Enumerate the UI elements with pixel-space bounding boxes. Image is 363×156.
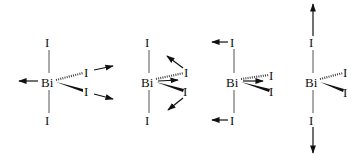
atom-i-axial-bottom: I	[230, 113, 234, 128]
atom-i-eq-hashed: I	[84, 65, 88, 80]
atom-i-axial-bottom: I	[45, 113, 49, 128]
atom-i-axial-top: I	[230, 35, 234, 50]
displacement-arrow-i-wedge	[94, 94, 113, 99]
atom-i-eq-wedge: I	[183, 84, 187, 99]
hashed-bond	[241, 75, 269, 79]
hashed-bond	[56, 73, 83, 80]
panel-mode-2: I I Bi I I	[141, 35, 188, 128]
displacement-arrow-i-wedge	[168, 98, 183, 110]
wedge-bond	[320, 82, 344, 92]
atom-i-eq-hashed: I	[343, 65, 347, 80]
atom-bi-center: Bi	[305, 75, 318, 90]
atom-i-eq-hashed: I	[184, 65, 188, 80]
panel-mode-4: I I Bi I I	[305, 4, 347, 153]
wedge-bond	[156, 82, 184, 92]
atom-bi-center: Bi	[41, 75, 54, 90]
atom-i-axial-top: I	[45, 35, 49, 50]
displacement-arrow-bi-right	[158, 80, 178, 81]
displacement-arrow-i-hashed	[94, 66, 113, 70]
panel-mode-3: I I Bi I I	[212, 35, 273, 128]
atom-i-eq-wedge: I	[269, 84, 273, 99]
wedge-bond	[56, 82, 83, 92]
displacement-arrow-i-hashed	[167, 56, 183, 68]
wedge-bond	[241, 82, 270, 92]
vibrational-modes-diagram: I I Bi I I I I Bi I I I I Bi I I	[0, 0, 363, 156]
atom-i-axial-bottom: I	[145, 113, 149, 128]
atom-bi-center: Bi	[141, 75, 154, 90]
hashed-bond	[320, 73, 343, 79]
atom-i-eq-wedge: I	[343, 85, 347, 100]
atom-i-axial-top: I	[309, 35, 313, 50]
atom-i-eq-wedge: I	[84, 84, 88, 99]
panel-mode-1: I I Bi I I	[19, 35, 113, 128]
atom-bi-center: Bi	[226, 75, 239, 90]
hashed-bond	[156, 73, 184, 79]
atom-i-axial-bottom: I	[309, 113, 313, 128]
atom-i-eq-hashed: I	[269, 68, 273, 83]
atom-i-axial-top: I	[145, 35, 149, 50]
